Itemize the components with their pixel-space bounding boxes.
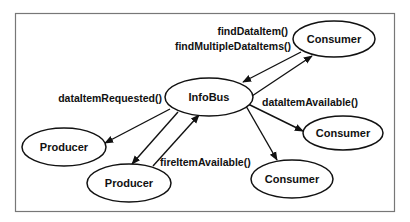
node-producer-left: Producer bbox=[22, 128, 106, 166]
edge-label-data-item-available: dataItemAvailable() bbox=[262, 96, 358, 108]
edge-infobus-to-consumer-bottom bbox=[246, 106, 277, 160]
node-label-consumer-right: Consumer bbox=[316, 127, 371, 139]
node-producer-bottom: Producer bbox=[87, 164, 171, 202]
edge-label-data-item-requested: dataItemRequested() bbox=[58, 92, 162, 104]
edge-label-find-multiple-data-items: findMultipleDataItems() bbox=[175, 40, 291, 52]
infobus-diagram: InfoBus Consumer Consumer Consumer Produ… bbox=[0, 0, 410, 222]
node-consumer-right: Consumer bbox=[303, 116, 383, 150]
edge-infobus-to-producer-left bbox=[105, 109, 170, 143]
edge-infobus-to-consumer-right bbox=[248, 104, 303, 131]
node-infobus: InfoBus bbox=[165, 78, 253, 116]
edge-label-find-data-item: findDataItem() bbox=[217, 25, 288, 37]
node-label-infobus: InfoBus bbox=[189, 91, 230, 103]
node-label-consumer-top: Consumer bbox=[307, 33, 362, 45]
node-label-producer-left: Producer bbox=[40, 141, 89, 153]
edge-label-fire-item-available: fireItemAvailable() bbox=[160, 156, 251, 168]
node-consumer-bottom: Consumer bbox=[251, 160, 333, 198]
node-label-producer-bottom: Producer bbox=[105, 177, 154, 189]
node-label-consumer-bottom: Consumer bbox=[265, 173, 320, 185]
node-consumer-top: Consumer bbox=[293, 21, 375, 57]
edge-consumer-top-to-infobus bbox=[243, 52, 301, 82]
